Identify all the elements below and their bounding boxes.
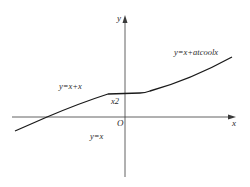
y-axis-label: y [117, 14, 121, 23]
left-curve-annotation: y=x+x [59, 82, 82, 91]
y-axis-arrow-icon [123, 15, 128, 23]
origin-label: O [117, 119, 124, 128]
near-origin-annotation: x2 [111, 97, 119, 106]
below-axis-annotation: y=x [90, 132, 103, 141]
function-graph [0, 0, 250, 187]
x-axis-label: x [232, 119, 236, 128]
right-curve-annotation: y=x+atcoolx [174, 48, 218, 57]
